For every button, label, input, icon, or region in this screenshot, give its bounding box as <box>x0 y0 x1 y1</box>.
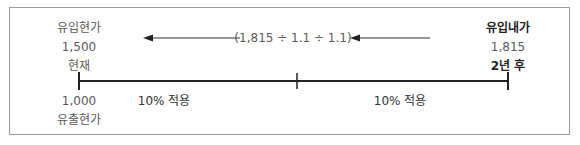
end-inflow-value: 1,815 <box>491 40 525 54</box>
start-inflow-label: 유입현가 <box>57 21 101 35</box>
start-time-label: 현재 <box>68 59 90 73</box>
end-time-label: 2년 후 <box>491 59 526 73</box>
start-inflow-value: 1,500 <box>62 40 96 54</box>
end-inflow-label: 유입내가 <box>486 21 530 35</box>
start-outflow-label: 유출현가 <box>57 113 101 127</box>
arrow-head-left-icon <box>143 35 153 42</box>
start-outflow-value: 1,000 <box>62 94 96 108</box>
period-2-label: 10% 적용 <box>374 94 427 108</box>
discount-formula: (1,815 ÷ 1.1 ÷ 1.1) <box>234 31 351 45</box>
period-1-label: 10% 적용 <box>138 94 191 108</box>
